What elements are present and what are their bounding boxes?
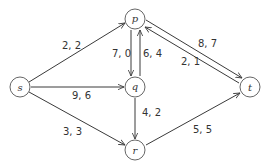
edge-label-q-p: 6, 4 [143,48,162,59]
edge-label-s-p: 2, 2 [62,40,81,51]
edge-label-p-q: 7, 0 [112,48,131,59]
flow-network-diagram: 2, 2 9, 6 3, 3 7, 0 6, 4 8, 7 2, 1 4, 2 … [0,0,273,163]
edge-label-r-t: 5, 5 [193,124,212,135]
node-p: p [125,9,145,29]
node-label-p: p [132,13,139,24]
edge-label-s-r: 3, 3 [63,126,82,137]
edge-label-t-p: 2, 1 [181,56,200,67]
node-t: t [240,77,260,97]
node-s: s [10,77,30,97]
node-r: r [125,140,145,160]
edge-label-q-r: 4, 2 [142,107,161,118]
node-label-q: q [132,81,138,92]
node-q: q [125,77,145,97]
edge-s-p [29,23,125,82]
edge-r-t [146,93,240,145]
edge-label-s-q: 9, 6 [72,90,91,101]
node-label-s: s [17,82,22,93]
edge-label-p-t: 8, 7 [198,38,217,49]
